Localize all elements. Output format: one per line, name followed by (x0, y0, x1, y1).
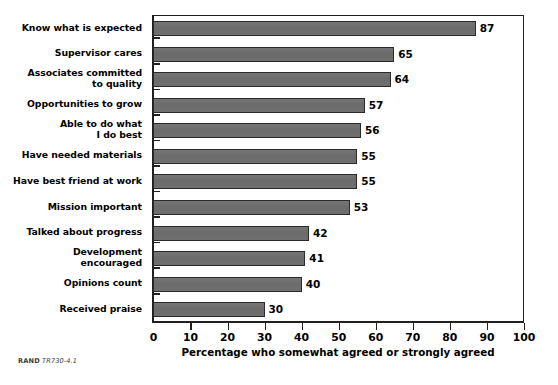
bar (153, 123, 361, 138)
category-label: Have needed materials (0, 149, 142, 160)
x-axis-tick-label: 100 (513, 331, 536, 344)
x-axis-tick-label: 30 (257, 331, 272, 344)
y-axis-tick (153, 140, 160, 142)
x-axis-tick (228, 323, 229, 330)
y-axis-tick (153, 293, 160, 295)
bar (153, 174, 357, 189)
category-label-line: Mission important (0, 201, 142, 212)
bar-value-label: 65 (398, 47, 413, 62)
category-label: Talked about progress (0, 226, 142, 237)
x-axis-tick (487, 323, 488, 330)
category-label: Mission important (0, 201, 142, 212)
category-label: Received praise (0, 303, 142, 314)
category-label-line: Opportunities to grow (0, 98, 142, 109)
bar-value-label: 42 (313, 226, 328, 241)
category-label-line: encouraged (0, 257, 142, 268)
y-axis-tick (153, 114, 160, 116)
category-label-line: Know what is expected (0, 22, 142, 33)
category-label-line: Able to do what (0, 118, 142, 129)
x-axis-tick-label: 70 (405, 331, 420, 344)
bar (153, 21, 475, 36)
x-axis-tick (265, 323, 266, 330)
bar-value-label: 64 (395, 72, 410, 87)
x-axis-tick-label: 10 (183, 331, 198, 344)
x-axis-tick (450, 323, 451, 330)
x-axis-tick-label: 80 (442, 331, 457, 344)
bar (153, 72, 390, 87)
category-label-line: Have needed materials (0, 149, 142, 160)
x-axis-tick (524, 323, 525, 330)
category-label: Opportunities to grow (0, 98, 142, 109)
bar (153, 226, 309, 241)
bar-value-label: 30 (269, 302, 284, 317)
bar (153, 98, 364, 113)
category-label-column: Know what is expectedSupervisor caresAss… (0, 15, 148, 323)
y-axis-tick (153, 63, 160, 65)
bar-value-label: 56 (365, 123, 380, 138)
footer-figure-id: TR730-4.1 (42, 357, 77, 365)
category-label-line: Development (0, 246, 142, 257)
bar-value-label: 55 (361, 149, 376, 164)
y-axis-tick (153, 191, 160, 193)
x-axis-tick (339, 323, 340, 330)
bar-value-label: 53 (354, 200, 369, 215)
footer-organization: RAND (18, 357, 40, 365)
x-axis-tick-label: 0 (150, 331, 158, 344)
category-label-line: I do best (0, 129, 142, 140)
x-axis-tick-label: 60 (368, 331, 383, 344)
category-label: Associates committedto quality (0, 67, 142, 89)
bar-value-label: 87 (480, 21, 495, 36)
category-label: Supervisor cares (0, 47, 142, 58)
category-label-line: Opinions count (0, 277, 142, 288)
y-axis-tick (153, 165, 160, 167)
x-axis-tick (302, 323, 303, 330)
y-axis-tick (153, 242, 160, 244)
x-axis-tick-label: 20 (220, 331, 235, 344)
category-label: Opinions count (0, 277, 142, 288)
plot-area: 876564575655555342414030 (153, 16, 524, 323)
bar (153, 251, 305, 266)
bar (153, 200, 349, 215)
category-label-line: Talked about progress (0, 226, 142, 237)
category-label-line: Supervisor cares (0, 47, 142, 58)
category-label: Developmentencouraged (0, 246, 142, 268)
bar-chart-figure: Know what is expectedSupervisor caresAss… (0, 0, 558, 385)
x-axis-tick (190, 323, 191, 330)
bar (153, 149, 357, 164)
x-axis-tick-label: 40 (294, 331, 309, 344)
bar-value-label: 55 (361, 174, 376, 189)
category-label-line: Have best friend at work (0, 175, 142, 186)
category-label: Have best friend at work (0, 175, 142, 186)
bar-value-label: 57 (369, 98, 384, 113)
x-axis-tick-label: 90 (479, 331, 494, 344)
bar-value-label: 40 (306, 277, 321, 292)
x-axis-tick (413, 323, 414, 330)
y-axis-tick (153, 216, 160, 218)
category-label-line: Associates committed (0, 67, 142, 78)
category-label: Know what is expected (0, 22, 142, 33)
category-label: Able to do whatI do best (0, 118, 142, 140)
x-axis-tick-label: 50 (331, 331, 346, 344)
bar-value-label: 41 (309, 251, 324, 266)
category-label-line: Received praise (0, 303, 142, 314)
y-axis-tick (153, 267, 160, 269)
x-axis-title: Percentage who somewhat agreed or strong… (152, 346, 524, 358)
figure-footer: RAND TR730-4.1 (18, 357, 77, 365)
y-axis-tick (153, 37, 160, 39)
bar (153, 277, 301, 292)
bar (153, 302, 264, 317)
x-axis-tick (376, 323, 377, 330)
y-axis-tick (153, 89, 160, 91)
category-label-line: to quality (0, 78, 142, 89)
bar (153, 47, 394, 62)
